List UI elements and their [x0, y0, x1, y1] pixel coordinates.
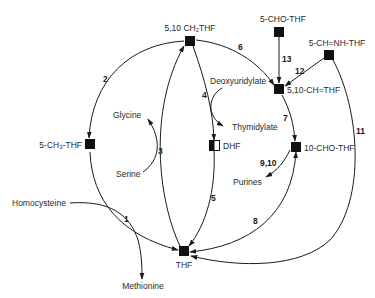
node-5-ch3-thf [85, 139, 95, 149]
reaction-number-5: 5 [211, 193, 216, 203]
edge-reaction-1-main [90, 152, 178, 250]
label-5-ch-nh-thf: 5-CH=NH-THF [309, 38, 365, 48]
label-dhf: DHF [223, 141, 240, 151]
label-5-cho-thf: 5-CHO-THF [260, 14, 306, 24]
node-5-cho-thf [274, 27, 284, 37]
reaction-number-6: 6 [238, 42, 243, 52]
reaction-number-1: 1 [124, 214, 129, 224]
node-5-ch-nh-thf [324, 50, 334, 60]
reaction-number-13: 13 [282, 54, 292, 64]
reaction-number-9-10: 9,10 [260, 158, 277, 168]
label-thymidylate: Thymidylate [232, 122, 278, 132]
edge-reaction-1-side [70, 203, 142, 279]
label-homocysteine: Homocysteine [12, 198, 66, 208]
label-10-cho-thf: 10-CHO-THF [304, 143, 355, 153]
node-ch2thf [185, 36, 195, 46]
reaction-number-11: 11 [356, 126, 365, 136]
reaction-number-4: 4 [202, 90, 207, 100]
label-purines: Purines [233, 177, 262, 187]
edge-reaction-3-main [160, 46, 184, 246]
node-10-cho-thf [291, 142, 301, 152]
label-glycine: Glycine [113, 110, 142, 120]
label-serine: Serine [116, 169, 141, 179]
reaction-number-3: 3 [158, 146, 163, 156]
label-methionine: Methionine [122, 281, 164, 291]
reaction-number-7: 7 [283, 113, 288, 123]
reaction-number-8: 8 [253, 216, 258, 226]
folate-metabolism-diagram: 5,10 CH₂THF 5-CHO-THF 5-CH=NH-THF 5,10-C… [0, 0, 375, 298]
node-thf [179, 246, 189, 256]
reaction-number-2: 2 [103, 74, 108, 84]
edge-reaction-2 [89, 41, 184, 138]
label-5-ch3-thf: 5-CH₃-THF [39, 140, 82, 150]
reaction-number-12: 12 [295, 66, 305, 76]
label-ch2thf: 5,10 CH₂THF [164, 23, 215, 33]
edge-reaction-3-side [143, 119, 157, 172]
label-5-10-ch-thf: 5,10-CH=THF [287, 85, 340, 95]
node-dhf [210, 141, 220, 151]
edge-reaction-8 [190, 152, 296, 252]
label-deoxyuridylate: Deoxyuridylate [210, 76, 266, 86]
label-thf: THF [176, 260, 193, 270]
node-5-10-ch-thf [274, 84, 284, 94]
